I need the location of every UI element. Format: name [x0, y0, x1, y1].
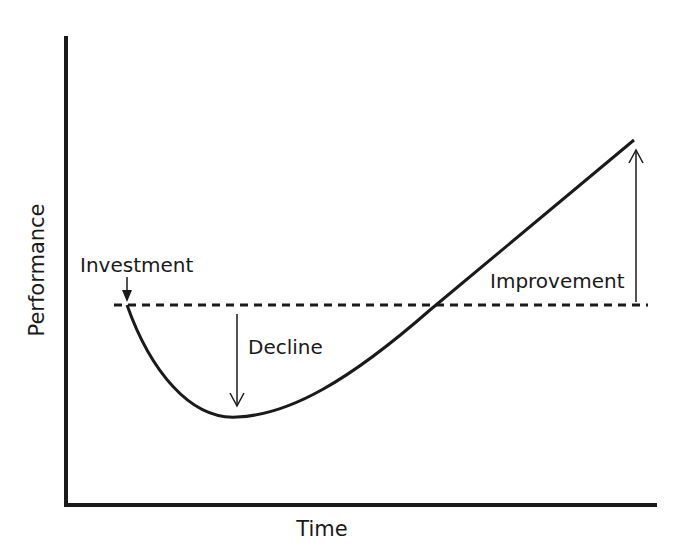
- diagram-canvas: Investment Decline Improvement Time Perf…: [0, 0, 678, 553]
- investment-label: Investment: [80, 253, 193, 277]
- investment-arrow-icon: [122, 277, 132, 302]
- y-axis-title: Performance: [25, 203, 49, 336]
- decline-arrow-icon: [230, 314, 244, 406]
- improvement-label: Improvement: [490, 269, 625, 293]
- x-axis-title: Time: [295, 517, 347, 541]
- improvement-arrow-icon: [629, 150, 643, 302]
- jcurve-diagram: Investment Decline Improvement Time Perf…: [0, 0, 678, 553]
- decline-label: Decline: [248, 335, 323, 359]
